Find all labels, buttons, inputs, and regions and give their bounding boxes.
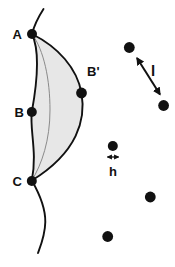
free-dot-bottom bbox=[102, 231, 113, 242]
point-a-dot bbox=[27, 29, 37, 39]
free-dot-lower-right bbox=[145, 192, 156, 203]
curve-diagram-svg: A B B' C l h bbox=[0, 0, 175, 267]
point-c-dot bbox=[27, 176, 37, 186]
shaded-region bbox=[31, 34, 82, 181]
free-dot-top bbox=[124, 42, 135, 53]
label-spacing: h bbox=[109, 164, 117, 179]
label-point-b-prime: B' bbox=[87, 64, 99, 79]
figure-canvas: A B B' C l h bbox=[0, 0, 175, 267]
point-b-dot bbox=[27, 107, 37, 117]
label-point-c: C bbox=[13, 174, 23, 189]
lower-curve-extension bbox=[32, 181, 46, 254]
label-length: l bbox=[151, 62, 155, 79]
point-b-prime-dot bbox=[76, 88, 87, 99]
label-point-a: A bbox=[13, 27, 23, 42]
free-dot-upper-right bbox=[158, 100, 169, 111]
free-dot-middle bbox=[108, 141, 118, 151]
length-double-arrow-icon bbox=[137, 58, 160, 95]
label-point-b: B bbox=[15, 105, 24, 120]
